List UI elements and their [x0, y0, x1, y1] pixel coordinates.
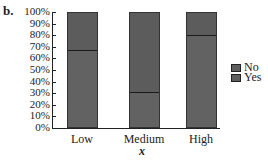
segment-yes — [187, 35, 216, 127]
y-tick-label: 40% — [10, 76, 50, 87]
y-tick-label: 30% — [10, 87, 50, 98]
y-axis-line — [52, 12, 53, 129]
legend-label-yes: Yes — [244, 70, 261, 84]
y-tick-label: 10% — [10, 110, 50, 121]
bar-low — [67, 12, 98, 128]
segment-yes — [130, 92, 159, 127]
y-tick-label: 60% — [10, 52, 50, 63]
legend-item-yes: Yes — [231, 71, 261, 83]
bar-high — [186, 12, 217, 128]
x-axis-line — [52, 128, 220, 129]
y-tick-label: 100% — [10, 6, 50, 17]
y-tick-label: 0% — [10, 122, 50, 133]
segment-no — [187, 13, 216, 36]
segment-no — [68, 13, 97, 51]
segment-yes — [68, 50, 97, 127]
bar-medium — [129, 12, 160, 128]
segment-no — [130, 13, 159, 93]
x-axis-label: x — [136, 144, 148, 159]
y-tick-label: 80% — [10, 29, 50, 40]
y-tick-label: 90% — [10, 18, 50, 29]
x-tick-label: High — [176, 132, 226, 147]
y-tick-label: 20% — [10, 99, 50, 110]
y-tick-label: 70% — [10, 41, 50, 52]
y-tick-label: 50% — [10, 64, 50, 75]
x-tick-label: Low — [57, 132, 107, 147]
legend-swatch-yes — [231, 74, 241, 82]
